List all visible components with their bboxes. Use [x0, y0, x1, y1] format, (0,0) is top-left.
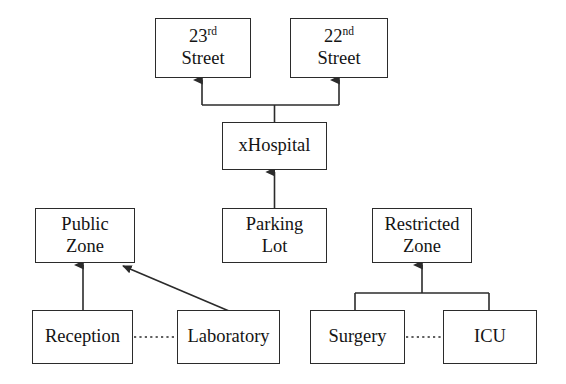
node-reception[interactable]: Reception — [32, 310, 133, 364]
icu-label: ICU — [474, 326, 506, 348]
parking-lot-label-line2: Lot — [262, 236, 288, 258]
parking-lot-label-line1: Parking — [246, 214, 304, 236]
restricted-zone-label-line1: Restricted — [384, 214, 459, 236]
public-zone-label-line1: Public — [61, 214, 108, 236]
node-x-hospital[interactable]: xHospital — [222, 122, 327, 170]
laboratory-label: Laboratory — [187, 326, 269, 348]
street-23rd-label-ordinal: 23rd — [189, 26, 217, 48]
node-public-zone[interactable]: Public Zone — [35, 208, 135, 263]
node-street-22nd[interactable]: 22nd Street — [290, 18, 388, 78]
restricted-zone-label-line2: Zone — [403, 236, 441, 258]
node-street-23rd[interactable]: 23rd Street — [155, 18, 251, 78]
node-laboratory[interactable]: Laboratory — [177, 310, 280, 364]
node-icu[interactable]: ICU — [443, 310, 537, 364]
node-surgery[interactable]: Surgery — [310, 310, 405, 364]
street-22nd-label-ordinal: 22nd — [324, 26, 354, 48]
street-22nd-label-street: Street — [317, 48, 360, 70]
diagram-canvas: 23rd Street 22nd Street xHospital Public… — [0, 0, 566, 384]
edge-laboratory-to-publiczone — [123, 266, 229, 311]
street-23rd-label-street: Street — [181, 48, 224, 70]
edge-hospital-to-streets — [202, 80, 339, 122]
reception-label: Reception — [45, 326, 120, 348]
public-zone-label-line2: Zone — [66, 236, 104, 258]
node-restricted-zone[interactable]: Restricted Zone — [372, 208, 472, 263]
surgery-label: Surgery — [328, 326, 386, 348]
edge-surgery-icu-to-restrictedzone — [355, 265, 489, 310]
node-parking-lot[interactable]: Parking Lot — [222, 208, 327, 263]
x-hospital-label: xHospital — [239, 135, 311, 157]
